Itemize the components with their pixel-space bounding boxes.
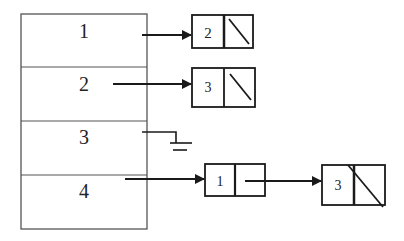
node-value: 1 — [217, 174, 224, 189]
list-node: 2 — [192, 15, 253, 48]
row-label-4: 4 — [79, 180, 89, 202]
row-label-2: 2 — [79, 73, 89, 95]
list-node: 3 — [192, 68, 255, 107]
row-label-3: 3 — [79, 126, 89, 148]
null-pointer-icon — [230, 74, 251, 100]
vertex-table: 1 2 3 4 — [21, 14, 147, 229]
node-value: 3 — [335, 178, 342, 193]
node-value: 3 — [205, 80, 212, 95]
null-pointer-icon — [229, 19, 249, 44]
ground-null-icon — [142, 132, 192, 150]
list-node: 3 — [322, 165, 385, 207]
row-label-1: 1 — [79, 20, 89, 42]
list-node: 1 — [205, 164, 265, 196]
node-value: 2 — [204, 25, 212, 41]
adjacency-list-diagram: 1 2 3 4 2 3 1 3 — [0, 0, 404, 241]
